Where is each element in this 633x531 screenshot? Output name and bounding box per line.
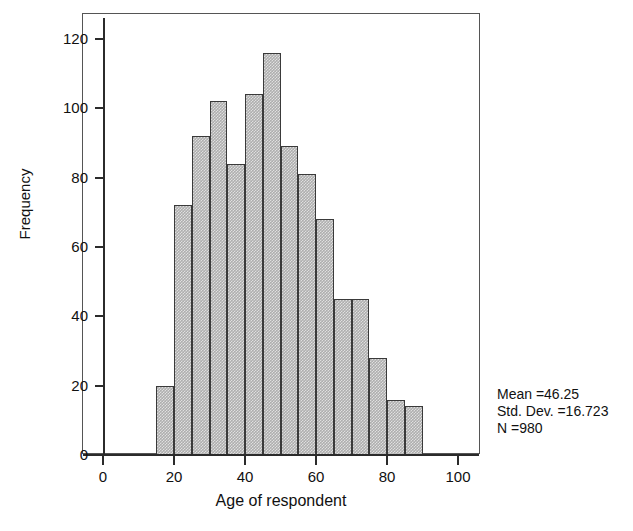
- x-axis-tick-label: 40: [215, 469, 275, 485]
- x-axis-tick: [386, 456, 388, 465]
- histogram-chart: 020406080100120 020406080100 Frequency A…: [0, 0, 633, 531]
- histogram-bar[interactable]: [352, 299, 370, 455]
- histogram-bar[interactable]: [227, 164, 245, 455]
- y-axis-tick-label: 40: [38, 308, 88, 323]
- x-axis-tick: [457, 456, 459, 465]
- histogram-bar[interactable]: [245, 94, 263, 455]
- y-axis-tick: [95, 315, 103, 317]
- histogram-bar[interactable]: [210, 101, 228, 455]
- y-axis-tick: [95, 107, 103, 109]
- histogram-bar[interactable]: [281, 146, 299, 455]
- x-axis-tick: [173, 456, 175, 465]
- stat-mean: Mean =46.25: [497, 386, 608, 403]
- x-axis-tick-label: 80: [357, 469, 417, 485]
- histogram-bar[interactable]: [174, 205, 192, 455]
- x-axis-tick: [244, 456, 246, 465]
- x-axis-tick-label: 60: [286, 469, 346, 485]
- x-axis-tick-label: 20: [144, 469, 204, 485]
- y-axis-tick: [95, 246, 103, 248]
- x-axis-line: [83, 454, 479, 456]
- y-axis-line: [103, 18, 105, 456]
- y-axis-tick-label: 120: [38, 31, 88, 46]
- histogram-bar[interactable]: [369, 358, 387, 455]
- x-axis-tick: [315, 456, 317, 465]
- histogram-bar[interactable]: [156, 386, 174, 455]
- histogram-bar[interactable]: [334, 299, 352, 455]
- y-axis-tick: [95, 38, 103, 40]
- x-axis-tick-label: 0: [73, 469, 133, 485]
- y-axis-tick: [95, 177, 103, 179]
- y-axis-tick-label: 100: [38, 100, 88, 115]
- x-axis-tick-label: 100: [428, 469, 488, 485]
- y-axis-tick-label: 80: [38, 170, 88, 185]
- y-axis-tick: [95, 385, 103, 387]
- histogram-bar[interactable]: [263, 53, 281, 455]
- x-axis-tick: [102, 456, 104, 465]
- y-axis-tick-label: 0: [38, 447, 88, 462]
- y-axis-tick-label: 20: [38, 378, 88, 393]
- histogram-bar[interactable]: [387, 400, 405, 455]
- histogram-bar[interactable]: [298, 174, 316, 455]
- histogram-bar[interactable]: [316, 219, 334, 455]
- x-axis-title: Age of respondent: [83, 492, 479, 510]
- y-axis-tick-label: 60: [38, 239, 88, 254]
- y-axis-title: Frequency: [17, 124, 33, 284]
- stat-n: N =980: [497, 420, 608, 437]
- histogram-bar[interactable]: [405, 406, 423, 455]
- histogram-bar[interactable]: [192, 136, 210, 455]
- stat-std-dev: Std. Dev. =16.723: [497, 403, 608, 420]
- statistics-annotation: Mean =46.25 Std. Dev. =16.723 N =980: [497, 386, 608, 437]
